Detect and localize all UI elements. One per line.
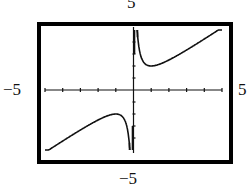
axes bbox=[45, 27, 222, 153]
graph-plot bbox=[0, 0, 249, 186]
